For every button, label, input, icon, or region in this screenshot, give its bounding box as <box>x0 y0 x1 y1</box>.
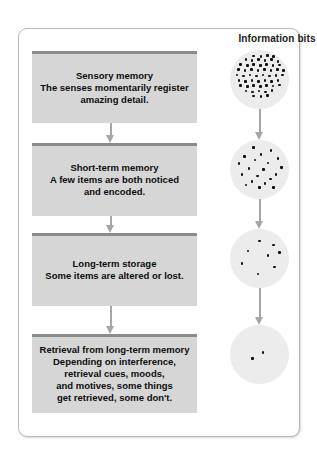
arrow-shaft <box>259 288 261 317</box>
arrow-shaft <box>110 306 112 326</box>
information-bit-dot <box>239 84 242 87</box>
information-bit-dot <box>239 63 242 66</box>
arrow-head <box>106 225 114 233</box>
information-bit-dot <box>245 58 248 61</box>
stage-desc-line: retrieval cues, moods, <box>64 368 164 380</box>
stage-desc-line: and encoded. <box>84 186 145 198</box>
information-bit-dot <box>236 74 239 77</box>
information-bit-dot <box>241 173 244 176</box>
information-bit-dot <box>272 64 275 67</box>
information-bit-dot <box>275 173 278 176</box>
information-bit-dot <box>258 90 261 93</box>
information-bit-dot <box>238 79 241 82</box>
information-bit-dot <box>278 64 281 67</box>
information-bit-dot <box>264 182 267 185</box>
down-arrow-icon <box>255 288 264 325</box>
information-bit-dot <box>252 84 255 87</box>
information-bit-dot <box>260 95 263 98</box>
information-bit-dot <box>269 178 272 181</box>
stage-box-retrieval: Retrieval from long-term memory Dependin… <box>32 334 197 413</box>
information-bit-dot <box>270 149 273 152</box>
stage-desc-line: Depending on interference, <box>53 356 176 368</box>
information-bit-dot <box>252 55 255 58</box>
information-bit-dot <box>252 146 255 149</box>
information-bit-dot <box>259 64 262 67</box>
information-bit-dot <box>277 157 280 160</box>
information-bit-dot <box>270 69 273 72</box>
stage-desc-line: and motives, some things <box>56 380 173 392</box>
information-bit-dot <box>272 244 275 247</box>
information-bit-dot <box>270 80 273 83</box>
information-bit-dot <box>259 85 262 88</box>
information-bit-dot <box>272 186 275 189</box>
information-bit-dot <box>249 74 252 77</box>
information-bit-dot <box>244 69 247 72</box>
information-bit-dot <box>264 91 267 94</box>
information-bit-dot <box>268 75 271 78</box>
diagram-frame: Information bits Sensory memory The sens… <box>18 28 300 437</box>
arrow-head <box>255 317 263 325</box>
stage-title: Long-term storage <box>73 258 157 270</box>
information-bit-dot <box>264 59 267 62</box>
information-bit-dot <box>278 251 281 254</box>
information-bit-dot <box>276 68 279 71</box>
bits-circle-long-term <box>230 229 289 288</box>
information-bits-title: Information bits <box>219 33 317 44</box>
information-bit-dot <box>251 91 254 94</box>
information-bit-dot <box>273 266 276 269</box>
stage-desc-line: amazing detail. <box>80 94 148 106</box>
information-bit-dot <box>271 89 274 92</box>
information-bit-dot <box>241 262 244 265</box>
bits-circle-sensory <box>230 50 289 109</box>
information-bit-dot <box>238 162 241 165</box>
information-bit-dot <box>252 63 255 66</box>
stage-title: Retrieval from long-term memory <box>40 344 190 356</box>
information-bit-dot <box>251 79 254 82</box>
information-bit-dot <box>248 167 251 170</box>
information-bit-dot <box>246 85 249 88</box>
stage-box-sensory-memory: Sensory memory The senses momentarily re… <box>32 51 197 123</box>
information-bit-dot <box>251 357 254 360</box>
information-bit-dot <box>280 166 283 169</box>
information-bit-dot <box>262 168 265 171</box>
information-bit-dot <box>260 153 263 156</box>
information-bit-dot <box>245 184 248 187</box>
information-bit-dot <box>237 68 240 71</box>
arrow-shaft <box>259 199 261 221</box>
stage-desc-line: A few items are both noticed <box>50 174 179 186</box>
information-bit-dot <box>258 186 261 189</box>
information-bit-dot <box>267 254 270 257</box>
arrow-shaft <box>110 216 112 225</box>
information-bit-dot <box>270 58 273 61</box>
stage-title: Sensory memory <box>76 70 153 82</box>
down-arrow-icon <box>106 306 115 334</box>
information-bit-dot <box>263 68 266 71</box>
information-bit-dot <box>266 94 269 97</box>
down-arrow-icon <box>255 199 264 229</box>
information-bit-dot <box>242 75 245 78</box>
information-bit-dot <box>257 58 260 61</box>
stage-box-short-term-memory: Short-term memory A few items are both n… <box>32 143 197 216</box>
information-bit-dot <box>254 159 257 162</box>
down-arrow-icon <box>106 123 115 143</box>
bits-circle-retrieval <box>230 325 289 384</box>
arrow-head <box>106 326 114 334</box>
stage-desc-line: get retrieved, some don't. <box>57 392 172 404</box>
information-bit-dot <box>256 175 259 178</box>
information-bit-dot <box>272 85 275 88</box>
stage-desc-line: The senses momentarily register <box>40 82 188 94</box>
information-bit-dot <box>262 74 265 77</box>
stage-box-long-term-storage: Long-term storage Some items are altered… <box>32 233 197 306</box>
arrow-shaft <box>110 123 112 135</box>
information-bit-dot <box>258 240 261 243</box>
arrow-head <box>255 132 263 140</box>
information-bit-dot <box>243 155 246 158</box>
arrow-head <box>255 221 263 229</box>
information-bit-dot <box>251 180 254 183</box>
information-bit-dot <box>247 250 250 253</box>
information-bit-dot <box>265 63 268 66</box>
information-bit-dot <box>265 84 268 87</box>
stage-desc-line: Some items are altered or lost. <box>45 270 183 282</box>
information-bit-dot <box>250 68 253 71</box>
arrow-shaft <box>259 109 261 132</box>
